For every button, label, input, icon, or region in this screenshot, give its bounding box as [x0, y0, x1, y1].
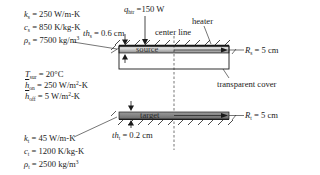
source-density-label: ρs = 7500 kg/m3 [24, 35, 79, 45]
target-radius-label: Rt = 5 cm [245, 110, 278, 120]
heater-label: heater [192, 16, 213, 26]
thickness-target-arrow-bottom [128, 120, 134, 126]
heater-hatch [115, 40, 230, 45]
thickness-source-arrow-bottom [122, 54, 128, 60]
source-conductivity-label: ks = 250 W/m-K [24, 9, 80, 19]
heater-power-label: qhtr =150 W [124, 4, 164, 14]
surroundings-temperature-label: Tsur = 20°C [25, 69, 63, 79]
target-specific-heat-label: ct = 1200 K/kg-K [24, 146, 84, 156]
target-conductivity-label: kt = 45 W/m-K [24, 133, 75, 143]
target-thickness-label: tht = 0.2 cm [112, 130, 153, 140]
source-radius-label: Rs = 5 cm [245, 45, 279, 55]
thickness-source-arrow-top [122, 40, 128, 46]
heat-transfer-coefficient-off-label: hoff = 5 W/m2-K [25, 91, 80, 101]
transparent-cover-label: transparent cover [217, 79, 276, 89]
source-thickness-label: ths = 0.6 cm [83, 28, 124, 38]
target-base-hatch [118, 120, 233, 125]
source-specific-heat-label: cs = 850 K/kg-K [24, 22, 80, 32]
heat-transfer-coefficient-on-label: hon = 250 W/m2-K [25, 80, 88, 90]
thickness-target-arrow-top [128, 106, 134, 112]
center-line-label: center line [155, 27, 191, 37]
target-label: target [140, 110, 159, 120]
source-label: source [136, 44, 158, 54]
target-density-label: ρt = 2500 kg/m3 [24, 159, 79, 169]
